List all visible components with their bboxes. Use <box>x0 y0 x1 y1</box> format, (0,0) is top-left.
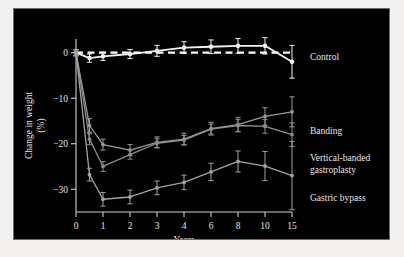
data-point-marker <box>263 164 267 168</box>
legend-label[interactable]: Vertical-banded <box>310 153 370 163</box>
data-point-marker <box>101 54 106 59</box>
data-point-marker <box>290 174 294 178</box>
data-point-marker <box>182 181 186 185</box>
x-tick-label: 8 <box>236 221 241 231</box>
data-point-marker <box>209 170 213 174</box>
legend-label[interactable]: Gastric bypass <box>310 193 366 203</box>
data-point-marker <box>87 56 92 61</box>
data-point-marker <box>263 44 268 49</box>
data-point-marker <box>155 141 159 145</box>
data-point-marker <box>155 49 160 54</box>
chart-plot-area: 0−10−20−3001234681015 YearsChange in wei… <box>14 9 390 240</box>
data-point-marker <box>128 195 132 199</box>
data-series-group <box>73 38 294 210</box>
data-point-marker <box>88 137 92 141</box>
data-point-marker <box>209 127 213 131</box>
x-tick-label: 0 <box>74 221 79 231</box>
series-vertical-banded-gastroplasty <box>73 50 294 172</box>
legend-label[interactable]: gastroplasty <box>310 165 356 175</box>
data-point-marker <box>101 143 105 147</box>
series-line <box>76 53 292 167</box>
data-point-marker <box>101 197 105 201</box>
data-point-marker <box>155 186 159 190</box>
series-gastric-bypass <box>73 49 294 209</box>
x-tick-label: 4 <box>182 221 187 231</box>
weight-change-line-chart: 0−10−20−3001234681015 YearsChange in wei… <box>14 9 390 240</box>
series-control <box>73 38 294 79</box>
x-tick-label: 3 <box>155 221 160 231</box>
data-point-marker <box>263 114 267 118</box>
data-point-marker <box>290 133 294 137</box>
data-point-marker <box>209 44 214 49</box>
x-tick-label: 15 <box>287 221 297 231</box>
data-point-marker <box>263 125 267 129</box>
data-point-marker <box>74 51 78 55</box>
data-point-marker <box>290 110 294 114</box>
y-axis-title: Change in weight(%) <box>24 92 47 159</box>
legend-label[interactable]: Banding <box>310 126 342 136</box>
data-point-marker <box>128 153 132 157</box>
y-tick-label: −30 <box>53 185 68 195</box>
legend-group: ControlBandingVertical-bandedgastroplast… <box>310 52 370 203</box>
axis-titles-group: YearsChange in weight(%) <box>24 92 195 240</box>
data-point-marker <box>236 160 240 164</box>
data-point-marker <box>236 44 241 49</box>
data-point-marker <box>101 165 105 169</box>
x-axis-title: Years <box>173 235 195 240</box>
figure-panel: 0−10−20−3001234681015 YearsChange in wei… <box>13 8 390 240</box>
x-tick-label: 1 <box>101 221 106 231</box>
y-tick-label: −20 <box>53 139 68 149</box>
y-axis-title-line2: (%) <box>36 118 47 132</box>
legend-label[interactable]: Control <box>310 52 339 62</box>
data-point-marker <box>88 173 92 177</box>
x-tick-label: 6 <box>209 221 214 231</box>
y-tick-label: 0 <box>63 48 68 58</box>
y-axis-title-line1: Change in weight <box>24 92 34 159</box>
data-point-marker <box>182 45 187 50</box>
data-point-marker <box>128 52 133 57</box>
x-tick-label: 2 <box>128 221 133 231</box>
data-point-marker <box>236 124 240 128</box>
axes-group <box>71 39 292 217</box>
y-tick-label: −10 <box>53 94 68 104</box>
x-tick-label: 10 <box>260 221 270 231</box>
data-point-marker <box>182 138 186 142</box>
data-point-marker <box>290 59 295 64</box>
